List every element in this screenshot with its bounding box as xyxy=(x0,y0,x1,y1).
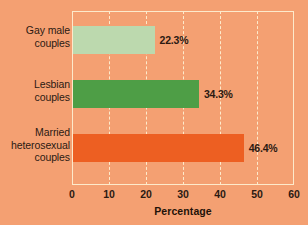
category-label: Gay male couples xyxy=(26,24,70,49)
x-tick-label: 0 xyxy=(57,188,87,200)
x-tick-label: 10 xyxy=(94,188,124,200)
bar-chart: Gay male couplesLesbian couplesMarried h… xyxy=(0,0,308,225)
value-label: 46.4% xyxy=(249,142,278,154)
bar xyxy=(73,134,244,162)
bar xyxy=(73,26,155,54)
gridline xyxy=(257,11,258,185)
x-tick-label: 50 xyxy=(242,188,272,200)
category-label: Lesbian couples xyxy=(34,78,70,103)
value-label: 34.3% xyxy=(204,88,233,100)
x-axis-title: Percentage xyxy=(72,205,294,217)
x-tick-label: 30 xyxy=(168,188,198,200)
x-tick-label: 20 xyxy=(131,188,161,200)
bar xyxy=(73,80,199,108)
x-tick-label: 60 xyxy=(279,188,308,200)
category-label: Married heterosexual couples xyxy=(11,126,70,164)
value-label: 22.3% xyxy=(160,34,189,46)
x-tick-label: 40 xyxy=(205,188,235,200)
